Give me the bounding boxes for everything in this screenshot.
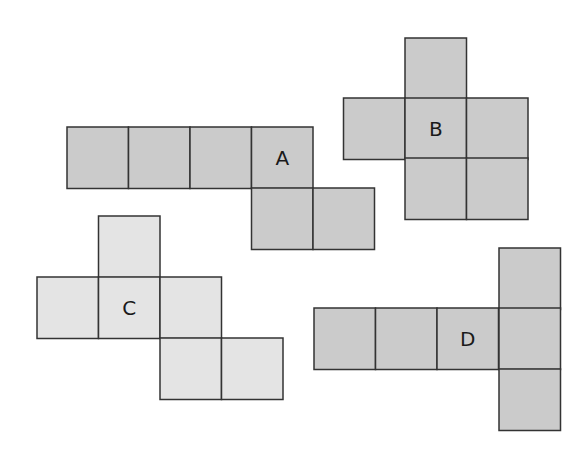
net-cell bbox=[160, 338, 222, 400]
net-c: C bbox=[37, 216, 283, 400]
net-cell bbox=[344, 98, 406, 160]
net-cell bbox=[190, 127, 252, 189]
net-cell bbox=[499, 308, 561, 370]
net-cell bbox=[99, 216, 161, 278]
net-cell bbox=[376, 308, 438, 370]
net-cell bbox=[222, 338, 284, 400]
cube-nets-diagram: A B C D bbox=[0, 0, 580, 451]
net-label-d: D bbox=[460, 327, 475, 351]
net-cell bbox=[467, 158, 529, 220]
net-cell bbox=[405, 38, 467, 100]
net-d: D bbox=[314, 248, 561, 431]
net-cell bbox=[252, 188, 314, 250]
net-cell bbox=[67, 127, 129, 189]
net-cell bbox=[160, 277, 222, 339]
net-label-b: B bbox=[429, 117, 443, 141]
net-cell bbox=[499, 248, 561, 310]
net-cell bbox=[37, 277, 99, 339]
net-cell bbox=[467, 98, 529, 160]
net-label-a: A bbox=[275, 146, 289, 170]
net-cell bbox=[313, 188, 375, 250]
net-cell bbox=[314, 308, 376, 370]
net-cell bbox=[499, 369, 561, 431]
net-label-c: C bbox=[122, 296, 136, 320]
net-cell bbox=[129, 127, 191, 189]
net-cell bbox=[405, 158, 467, 220]
